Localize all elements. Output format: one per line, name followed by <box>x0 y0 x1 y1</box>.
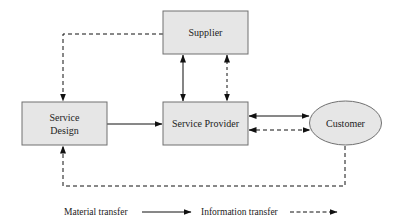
node-supplier: Supplier <box>163 11 248 54</box>
service-provider-label: Service Provider <box>172 118 240 129</box>
node-service-provider: Service Provider <box>163 102 248 145</box>
service-design-label-line1: Service <box>50 112 81 123</box>
diagram-canvas: Supplier Service Design Service Provider… <box>0 0 403 222</box>
customer-label: Customer <box>326 118 366 129</box>
edge-supplier-to-design <box>63 34 163 101</box>
legend-information-label: Information transfer <box>201 207 279 217</box>
supplier-label: Supplier <box>189 27 224 38</box>
legend: Material transfer Information transfer <box>64 207 337 217</box>
node-service-design: Service Design <box>22 102 107 145</box>
node-customer: Customer <box>310 101 382 145</box>
edge-customer-to-design <box>63 146 345 186</box>
legend-material-label: Material transfer <box>64 207 128 217</box>
service-design-label-line2: Design <box>50 125 78 136</box>
